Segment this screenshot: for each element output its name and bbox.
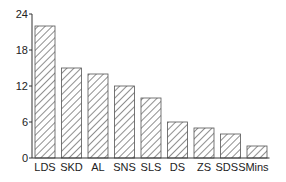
bar-sls xyxy=(141,98,161,158)
x-tick-label: SDSS xyxy=(216,161,246,173)
bar-zs xyxy=(194,128,214,158)
x-tick-label: Mins xyxy=(245,161,269,173)
x-tick-label: LDS xyxy=(34,161,55,173)
y-tick-label: 12 xyxy=(16,80,28,92)
x-tick-label: DS xyxy=(170,161,185,173)
x-axis: LDSSKDALSNSSLSDSZSSDSSMins xyxy=(32,158,270,173)
bar-mins xyxy=(247,146,267,158)
x-tick-label: SNS xyxy=(113,161,136,173)
x-tick-label: SKD xyxy=(60,161,83,173)
y-tick-label: 18 xyxy=(16,44,28,56)
bar-sns xyxy=(115,86,135,158)
bar-lds xyxy=(35,26,55,158)
bar-ds xyxy=(168,122,188,158)
y-tick-label: 0 xyxy=(22,152,28,164)
bar-chart: 06121824 LDSSKDALSNSSLSDSZSSDSSMins xyxy=(0,0,286,182)
bars-group xyxy=(35,26,267,158)
x-tick-label: ZS xyxy=(197,161,211,173)
bar-sdss xyxy=(221,134,241,158)
bar-al xyxy=(88,74,108,158)
y-axis: 06121824 xyxy=(16,8,32,164)
bar-skd xyxy=(62,68,82,158)
y-tick-label: 24 xyxy=(16,8,28,20)
x-tick-label: AL xyxy=(91,161,104,173)
y-tick-label: 6 xyxy=(22,116,28,128)
x-tick-label: SLS xyxy=(141,161,162,173)
